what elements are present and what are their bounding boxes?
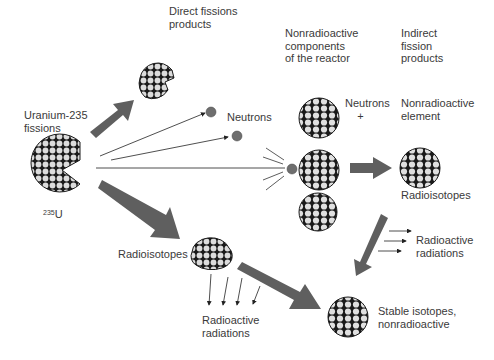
direct-fission-product-nucleus-icon — [139, 63, 174, 99]
nonradioactive-components-label: Nonradioactive components of the reactor — [285, 27, 358, 65]
radioactive-radiations-right-label: Radioactive radiations — [416, 234, 473, 259]
radioisotopes-right-label: Radioisotopes — [401, 189, 471, 202]
nonradioactive-element-label: Nonradioactive element — [401, 97, 474, 122]
arrow-left-to-stable-icon — [237, 262, 321, 309]
reactor-nucleus-icon — [299, 98, 339, 138]
arrow-to-radioisotopes-left-icon — [98, 180, 180, 239]
arrow-to-radioisotopes-icon — [350, 157, 392, 179]
neutrons-label: Neutrons — [227, 111, 272, 124]
neutron-icon — [232, 131, 242, 141]
reactor-nucleus-icon — [299, 150, 339, 190]
direct-fission-products-label: Direct fissions products — [169, 5, 237, 30]
isotope-symbol: U — [55, 208, 63, 220]
radioisotope-nucleus-left-icon — [191, 238, 232, 270]
radioactive-radiations-left-label: Radioactive radiations — [202, 314, 259, 339]
stable-isotopes-label: Stable isotopes, nonradioactive — [378, 305, 456, 330]
uranium-fissions-label: Uranium-235 fissions — [24, 109, 88, 134]
impact-lines-icon — [263, 148, 284, 190]
isotope-mass: 235 — [43, 209, 55, 216]
reactor-nucleus-icon — [299, 193, 337, 231]
neutron-icon — [287, 164, 297, 174]
radioisotopes-left-label: Radioisotopes — [118, 248, 188, 261]
uranium-nucleus-icon — [31, 134, 80, 192]
arrow-to-direct-products-icon — [90, 100, 134, 138]
stable-isotope-nucleus-icon — [328, 297, 368, 337]
arrow-to-stable-isotopes-icon — [354, 214, 388, 276]
radioisotope-nucleus-icon — [400, 148, 440, 188]
neutrons-plus-label: Neutrons + — [345, 97, 390, 122]
neutron-icon — [206, 107, 216, 117]
isotope-label: 235U — [43, 208, 63, 221]
indirect-fission-products-label: Indirect fission products — [401, 27, 443, 65]
